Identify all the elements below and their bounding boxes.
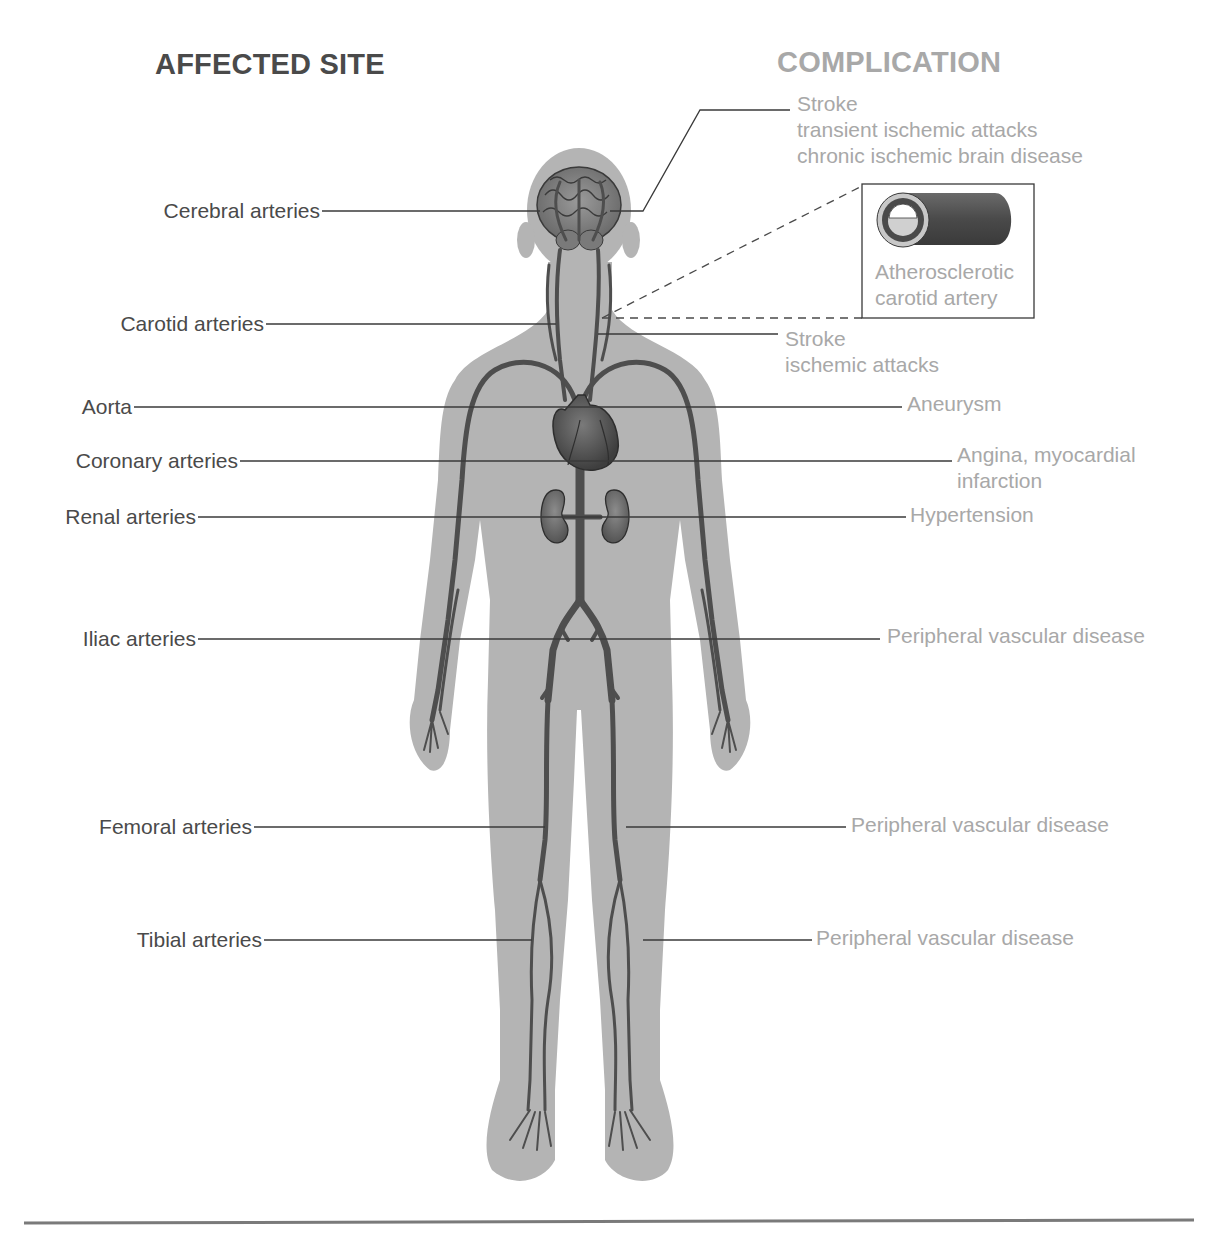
body-illustration <box>0 0 1212 1238</box>
site-label-aorta: Aorta <box>82 395 132 419</box>
complication-tibial: Peripheral vascular disease <box>816 925 1074 951</box>
artery-cross-section-icon <box>877 193 1011 247</box>
complication-coronary: Angina, myocardial infarction <box>957 442 1136 494</box>
complication-femoral: Peripheral vascular disease <box>851 812 1109 838</box>
affected-site-heading: AFFECTED SITE <box>155 48 385 81</box>
body-silhouette <box>410 148 751 1181</box>
complication-aorta: Aneurysm <box>907 391 1002 417</box>
site-label-renal: Renal arteries <box>65 505 196 529</box>
complication-iliac: Peripheral vascular disease <box>887 623 1145 649</box>
complication-cerebral: Stroke transient ischemic attacks chroni… <box>797 91 1083 169</box>
complication-heading: COMPLICATION <box>777 46 1001 79</box>
complication-carotid: Stroke ischemic attacks <box>785 326 939 378</box>
inset-callout-lines <box>602 186 862 318</box>
site-label-carotid: Carotid arteries <box>120 312 264 336</box>
site-label-iliac: Iliac arteries <box>83 627 196 651</box>
site-label-femoral: Femoral arteries <box>99 815 252 839</box>
site-label-cerebral: Cerebral arteries <box>164 199 320 223</box>
bottom-rule <box>24 1220 1194 1223</box>
site-label-tibial: Tibial arteries <box>137 928 262 952</box>
site-label-coronary: Coronary arteries <box>76 449 238 473</box>
complication-renal: Hypertension <box>910 502 1034 528</box>
inset-caption: Atherosclerotic carotid artery <box>875 259 1014 311</box>
atherosclerosis-sites-diagram: AFFECTED SITE COMPLICATION Cerebral arte… <box>0 0 1212 1238</box>
